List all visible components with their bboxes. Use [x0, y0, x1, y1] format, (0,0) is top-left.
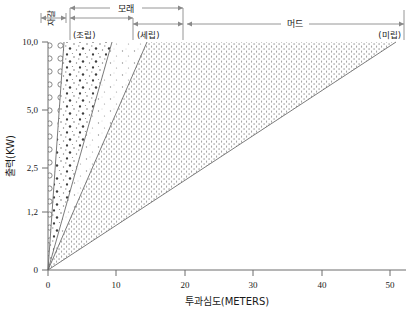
bracket-sand-fine [133, 22, 183, 27]
y-tick-label-5: 5,0 [27, 105, 39, 115]
bracket-label-gravel: 자갈 [46, 10, 56, 26]
y-axis-ticks [42, 42, 48, 270]
x-axis-title: 투과심도(METERS) [185, 296, 270, 307]
bracket-label-sand-fine: (세립) [137, 30, 160, 40]
y-axis-title: 출력(KW) [5, 135, 16, 177]
bracket-label-sand-coarse: (조립) [73, 30, 96, 40]
bracket-label-sand-visible: 모래 [118, 4, 134, 14]
x-tick-label-20: 20 [181, 280, 191, 290]
bracket-label-mud: 머드 [287, 19, 303, 29]
x-axis-ticks [48, 270, 390, 276]
wedge-group [48, 42, 396, 270]
y-tick-label-0: 0 [34, 265, 39, 275]
chart-figure: 10,0 5,0 2,5 1,2 0 0 10 20 30 40 50 투과심도… [0, 0, 414, 311]
x-tick-label-0: 0 [46, 280, 51, 290]
x-tick-label-10: 10 [112, 280, 122, 290]
x-tick-label-50: 50 [386, 280, 396, 290]
bracket-label-mud-fine: (미립) [378, 30, 401, 40]
x-tick-label-40: 40 [318, 280, 328, 290]
y-tick-label-1-2: 1,2 [27, 207, 38, 217]
chart-canvas: 10,0 5,0 2,5 1,2 0 0 10 20 30 40 50 투과심도… [0, 0, 414, 311]
x-tick-label-30: 30 [249, 280, 259, 290]
y-tick-label-2-5: 2,5 [27, 163, 39, 173]
y-tick-label-10: 10,0 [22, 37, 38, 47]
